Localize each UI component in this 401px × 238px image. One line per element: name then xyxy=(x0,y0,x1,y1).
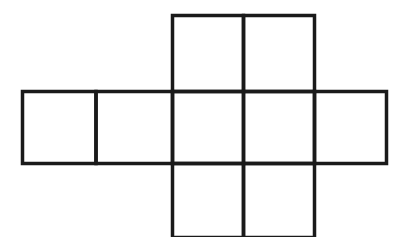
square-middle-4 xyxy=(244,92,315,164)
square-top-left xyxy=(173,16,244,92)
square-middle-3 xyxy=(173,92,244,164)
square-middle-2 xyxy=(96,92,173,164)
square-bottom-right xyxy=(244,164,315,238)
square-middle-5 xyxy=(315,92,387,164)
square-top-right xyxy=(244,16,315,92)
square-bottom-left xyxy=(173,164,244,238)
square-net-diagram xyxy=(0,0,401,237)
square-middle-1 xyxy=(23,92,97,164)
